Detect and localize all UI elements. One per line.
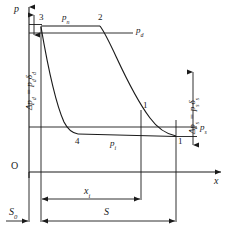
pressure-label-p-i: pi xyxy=(110,139,116,151)
delta-pd-sub1: d xyxy=(31,97,37,100)
dimension-label-xi: xi xyxy=(84,186,90,199)
delta-ps-text: Δp xyxy=(187,124,197,134)
point-label-3: 3 xyxy=(39,13,44,22)
delta-ps-sub2: s xyxy=(194,105,200,107)
delta-pd-eq: = p xyxy=(24,82,34,97)
s-base: S xyxy=(104,206,109,217)
delta-ps-sub1: s xyxy=(194,122,200,124)
pressure-label-p-s: ps xyxy=(200,123,207,135)
p-i-sub: i xyxy=(115,145,117,151)
pressure-label-p-d: pd xyxy=(136,26,143,38)
cycle-curves xyxy=(41,26,176,137)
point-label-1-lower: 1 xyxy=(178,137,183,146)
bottom-dimensions xyxy=(6,199,175,221)
curve-3-to-4 xyxy=(41,27,78,134)
delta-pd-text: Δp xyxy=(24,100,34,110)
delta-pd-sub2: d xyxy=(31,79,37,82)
p-s-base: p xyxy=(200,122,205,132)
p-axis-label: p xyxy=(14,4,19,14)
dimension-label-s0: S0 xyxy=(9,207,17,220)
annotation-delta-ps: Δps = psδs xyxy=(188,98,200,134)
xi-sub: i xyxy=(88,192,90,199)
delta-ps-sub3: s xyxy=(194,98,200,100)
p-n-sub: n xyxy=(67,19,70,25)
p-d-base: p xyxy=(136,25,141,35)
p-i-base: p xyxy=(110,138,115,148)
point-label-2: 2 xyxy=(98,13,103,22)
s0-sub: 0 xyxy=(14,213,17,220)
delta-pd-sub3: d xyxy=(31,72,37,75)
x-axis-label: x xyxy=(214,176,218,186)
pressure-label-p-n: pn xyxy=(62,13,69,25)
dimension-label-s: S xyxy=(104,207,109,220)
delta-ps-eq: = p xyxy=(187,107,197,122)
p-n-base: p xyxy=(62,12,67,22)
reference-lines xyxy=(29,25,197,137)
p-d-sub: d xyxy=(141,32,144,38)
annotation-delta-pd: Δpd = pdδd xyxy=(25,72,37,110)
projection-lines xyxy=(29,26,176,222)
pv-indicator-diagram: p x O 3 2 4 1 1 pn pd pi ps Δpd = pdδd Δ… xyxy=(0,0,230,236)
point-label-1-upper: 1 xyxy=(143,101,148,110)
curve-2-to-1 xyxy=(100,26,176,136)
origin-label: O xyxy=(11,161,18,171)
line-4-to-1 xyxy=(78,134,176,137)
point-label-4: 4 xyxy=(75,137,80,146)
p-s-sub: s xyxy=(205,129,207,135)
